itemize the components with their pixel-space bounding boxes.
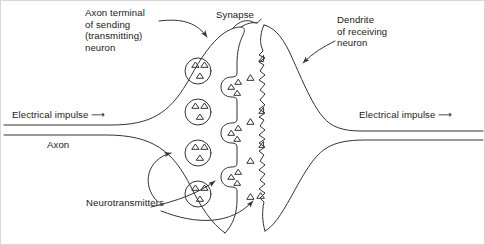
neurotransmitter-triangle (247, 75, 254, 80)
label-axon-terminal: Axon terminal of sending (transmitting) … (85, 7, 145, 53)
label-dendrite: Dendrite of receiving neuron (337, 14, 387, 49)
synapse-diagram: Axon terminal of sending (transmitting) … (0, 0, 485, 245)
vesicle (185, 58, 211, 84)
cleft-top-detail (241, 23, 257, 27)
neurotransmitter-triangle (247, 194, 254, 199)
vesicle-group (185, 58, 211, 207)
neurotransmitter-cleft-group (247, 75, 254, 199)
diagram-canvas (1, 1, 485, 245)
docked-vesicle (228, 125, 241, 141)
docked-vesicle (228, 169, 241, 185)
leader-axon-terminal (159, 20, 207, 37)
label-electrical-impulse-right: Electrical impulse ⟶ (359, 109, 452, 121)
neurotransmitter-triangle (247, 119, 254, 124)
docked-vesicle (228, 79, 241, 95)
leader-nt-vesicle (148, 153, 171, 201)
dendrite-shape (264, 25, 483, 231)
leader-lines (148, 19, 335, 220)
label-electrical-impulse-left: Electrical impulse ⟶ (12, 109, 105, 121)
leader-dendrite (303, 41, 335, 63)
label-neurotransmitters: Neurotransmitters (86, 197, 164, 209)
vesicle (185, 181, 211, 207)
label-axon: Axon (47, 139, 69, 151)
vesicle (185, 99, 211, 125)
label-synapse: Synapse (216, 9, 254, 21)
vesicle (185, 140, 211, 166)
neurotransmitter-triangle (247, 158, 254, 163)
docked-vesicle-contents (228, 79, 241, 185)
